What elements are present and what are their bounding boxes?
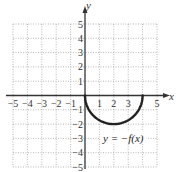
y-tick-label: −3 [72,133,83,144]
y-tick-label: 5 [78,19,83,30]
y-axis-label: y [85,0,91,11]
x-tick-label: 2 [111,98,116,109]
y-tick-label: 4 [78,33,83,44]
y-tick-label: −5 [72,162,83,172]
curve-label: y = −f(x) [102,132,144,145]
x-tick-label: −5 [8,98,19,109]
x-tick-label: −2 [51,98,62,109]
y-tick-label: −2 [72,119,83,130]
y-tick-label: 1 [78,76,83,87]
graph: −5−4−3−2−1123554321−1−2−3−4−5 x y y = −f… [0,0,176,171]
x-tick-label: 5 [155,98,160,109]
x-tick-label: 1 [97,98,102,109]
y-tick-label: −1 [72,104,83,115]
y-tick-label: 3 [78,47,83,58]
x-tick-label: −4 [22,98,33,109]
x-tick-label: −3 [36,98,47,109]
tick-labels: −5−4−3−2−1123554321−1−2−3−4−5 [8,19,160,172]
y-tick-label: −4 [72,147,83,158]
axes [6,6,170,169]
x-axis-label: x [168,90,174,102]
x-tick-label: 3 [126,98,131,109]
y-tick-label: 2 [78,61,83,72]
